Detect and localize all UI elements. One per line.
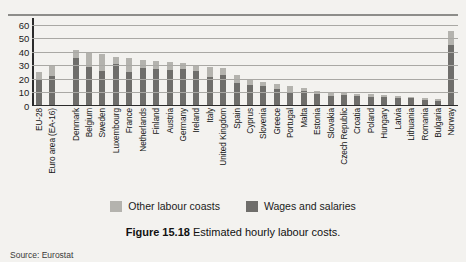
bar-segment-wages-and-salaries	[99, 71, 105, 105]
x-axis-category: Estonia	[310, 108, 323, 194]
top-divider-rule	[8, 14, 458, 16]
bar-segment-wages-and-salaries	[234, 83, 240, 105]
x-axis-category: Belgium	[82, 108, 95, 194]
stacked-bar[interactable]	[448, 31, 454, 104]
bar-segment-wages-and-salaries	[140, 68, 146, 105]
x-axis-category-label: Netherlands	[138, 108, 148, 152]
bar-segment-wages-and-salaries	[180, 69, 186, 104]
stacked-bar[interactable]	[328, 92, 334, 105]
stacked-bar[interactable]	[301, 88, 307, 104]
stacked-bar[interactable]	[207, 67, 213, 105]
bar-segment-wages-and-salaries	[113, 64, 119, 105]
x-axis-category-label: Italy	[205, 108, 215, 123]
bar-segment-wages-and-salaries	[49, 76, 55, 104]
x-axis-category-label: Denmark	[71, 108, 81, 141]
stacked-bar[interactable]	[408, 97, 414, 105]
x-axis-category-label: United Kingdom	[218, 108, 228, 166]
y-axis-tick-label: 30	[19, 60, 29, 71]
x-axis-category-label: Austria	[165, 108, 175, 133]
x-axis-category: Slovenia	[257, 108, 270, 194]
legend-swatch-icon-other	[110, 201, 122, 212]
x-axis-category-label: Greece	[272, 108, 282, 135]
stacked-bar[interactable]	[49, 66, 55, 105]
stacked-bar[interactable]	[73, 50, 79, 104]
x-axis-category: Bulgaria	[431, 108, 444, 194]
x-axis-category-label: Latvia	[393, 108, 403, 130]
bar-segment-wages-and-salaries	[274, 89, 280, 105]
x-axis-category: Netherlands	[136, 108, 149, 194]
figure-caption-text: Estimated hourly labour costs.	[193, 226, 340, 238]
x-axis-category-label: Slovakia	[326, 108, 336, 139]
x-axis-category: Norway	[445, 108, 458, 194]
stacked-bar[interactable]	[381, 95, 387, 105]
x-axis-category-label: Belgium	[84, 108, 94, 137]
x-axis-line	[32, 105, 458, 107]
x-axis-category: Austria	[163, 108, 176, 194]
x-axis-category: Hungary	[378, 108, 391, 194]
bar-segment-wages-and-salaries	[341, 95, 347, 104]
x-axis-category: Germany	[176, 108, 189, 194]
x-axis-category: Spain	[230, 108, 243, 194]
plot-canvas	[32, 18, 458, 106]
x-axis-category-label: Luxembourg	[111, 108, 121, 153]
stacked-bar[interactable]	[435, 99, 441, 104]
figure-caption: Figure 15.18 Estimated hourly labour cos…	[0, 226, 466, 238]
stacked-bar[interactable]	[167, 62, 173, 105]
gridline	[32, 38, 458, 39]
x-axis-category-label: Romania	[420, 108, 430, 141]
x-axis-category-label: Bulgaria	[433, 108, 443, 138]
category-group-separator	[59, 108, 69, 194]
x-axis-category: Portugal	[284, 108, 297, 194]
stacked-bar[interactable]	[36, 72, 42, 104]
stacked-bar[interactable]	[422, 98, 428, 104]
bar-segment-wages-and-salaries	[287, 92, 293, 105]
x-axis-category: Sweden	[96, 108, 109, 194]
x-axis-category-label: Slovenia	[258, 108, 268, 139]
stacked-bar[interactable]	[113, 57, 119, 104]
x-axis-category-label: EU-28	[34, 108, 44, 131]
bar-segment-wages-and-salaries	[354, 96, 360, 104]
stacked-bar[interactable]	[193, 65, 199, 104]
bar-segment-other-labour-costs	[140, 60, 146, 68]
bar-segment-wages-and-salaries	[247, 85, 253, 105]
legend-label-other: Other labour coasts	[128, 200, 220, 212]
stacked-bar[interactable]	[341, 92, 347, 105]
chart-plot-area: 0102030405060	[8, 18, 458, 106]
stacked-bar[interactable]	[354, 94, 360, 105]
bar-segment-wages-and-salaries	[260, 86, 266, 104]
stacked-bar[interactable]	[368, 94, 374, 104]
bar-segment-other-labour-costs	[99, 54, 105, 70]
gridline	[32, 65, 458, 66]
stacked-bar[interactable]	[274, 84, 280, 105]
bar-segment-wages-and-salaries	[422, 100, 428, 105]
bar-segment-wages-and-salaries	[408, 98, 414, 104]
bar-segment-wages-and-salaries	[328, 96, 334, 105]
stacked-bar[interactable]	[180, 63, 186, 104]
stacked-bar[interactable]	[287, 86, 293, 104]
stacked-bar[interactable]	[140, 60, 146, 105]
x-axis-category-label: Germany	[178, 108, 188, 141]
y-axis-tick-label: 40	[19, 46, 29, 57]
stacked-bar[interactable]	[395, 96, 401, 105]
legend-item-wages-and-salaries: Wages and salaries	[246, 200, 356, 212]
x-axis-category: Italy	[203, 108, 216, 194]
bar-segment-other-labour-costs	[207, 67, 213, 77]
gridline	[32, 92, 458, 93]
x-axis-category: Croatia	[351, 108, 364, 194]
bar-segment-other-labour-costs	[113, 57, 119, 64]
stacked-bar[interactable]	[153, 61, 159, 104]
bar-segment-wages-and-salaries	[193, 71, 199, 105]
x-axis-category-label: Ireland	[191, 108, 201, 133]
x-axis-category: Ireland	[190, 108, 203, 194]
legend-label-wages: Wages and salaries	[264, 200, 356, 212]
stacked-bar[interactable]	[220, 68, 226, 105]
x-axis-category-label: Finland	[151, 108, 161, 135]
x-axis-category: United Kingdom	[216, 108, 229, 194]
bar-segment-wages-and-salaries	[207, 77, 213, 105]
x-axis-category: France	[123, 108, 136, 194]
x-axis-category-label: Sweden	[97, 108, 107, 137]
bar-segment-wages-and-salaries	[435, 101, 441, 105]
x-axis-category: Romania	[418, 108, 431, 194]
gridline	[32, 79, 458, 80]
x-axis-category-label: France	[124, 108, 134, 133]
